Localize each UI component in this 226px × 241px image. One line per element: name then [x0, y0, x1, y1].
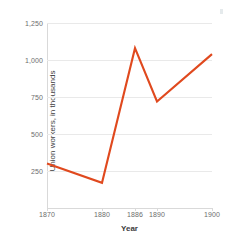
- y-axis-tick-label: 750: [31, 94, 43, 101]
- y-axis-tick-label: 1,000: [25, 57, 43, 64]
- y-axis-tick-label: 500: [31, 131, 43, 138]
- x-axis-tick-label: 1880: [94, 211, 110, 218]
- x-axis-tick-label: 1900: [204, 211, 220, 218]
- y-axis-tick-label: 1,250: [25, 20, 43, 27]
- x-axis-tick-label: 1886: [127, 211, 143, 218]
- x-axis-tick-mark: [157, 208, 158, 211]
- corner-artifact-icon: [220, 9, 223, 14]
- x-axis-line: [47, 208, 212, 209]
- x-axis-tick-label: 1870: [39, 211, 55, 218]
- x-axis-title: Year: [47, 224, 212, 233]
- x-axis-tick-mark: [102, 208, 103, 211]
- plot-area: [47, 23, 212, 208]
- x-axis-tick-label: 1890: [149, 211, 165, 218]
- x-axis-tick-mark: [212, 208, 213, 211]
- y-axis-tick-label: 250: [31, 168, 43, 175]
- x-axis-tick-mark: [47, 208, 48, 211]
- series-line-union-workers: [47, 23, 212, 208]
- line-chart: Union workers, in thousands 2505007501,0…: [0, 0, 226, 241]
- x-axis-tick-mark: [135, 208, 136, 211]
